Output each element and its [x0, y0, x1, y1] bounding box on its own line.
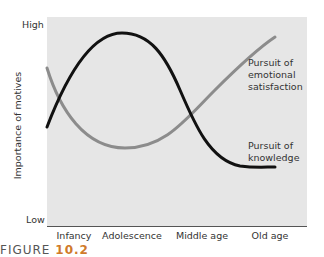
y-tick-low: Low	[26, 214, 45, 225]
x-tick-middle-age: Middle age	[176, 230, 228, 241]
emotional-satisfaction-label: Pursuit of emotional satisfaction	[248, 57, 303, 93]
y-tick-high: High	[22, 19, 44, 30]
x-tick-infancy: Infancy	[57, 230, 92, 241]
x-tick-old-age: Old age	[252, 230, 289, 241]
knowledge-line	[47, 33, 275, 167]
y-axis-title: Importance of motives	[12, 71, 23, 181]
x-tick-adolescence: Adolescence	[102, 230, 162, 241]
figure-caption: FIGURE 10.2	[0, 243, 89, 257]
knowledge-label: Pursuit of knowledge	[248, 140, 300, 164]
x-axis-line	[47, 226, 307, 227]
